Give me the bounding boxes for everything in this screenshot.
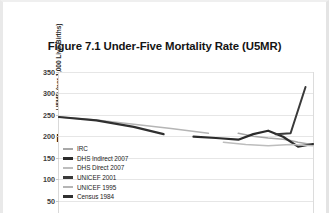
legend-swatch-icon [63,195,73,198]
chart-area: U5MR (per 1,000 Live Births) 50100150200… [58,72,314,213]
legend-label: UNICEF 2001 [77,174,116,181]
legend-item-dhs-direct-2007: DHS Direct 2007 [63,163,128,173]
legend-swatch-icon [63,176,73,179]
y-tick-label-150: 150 [43,153,55,162]
legend-swatch-icon [63,186,73,188]
legend-item-census-1984: Census 1984 [63,192,128,202]
chart-title-line-1: Figure 7.1 Under-Five Mortality Rate (U5… [3,39,326,54]
plot-area: 50100150200250300350 IRCDHS Indirect 200… [58,72,314,213]
legend-swatch-icon [63,157,73,160]
legend-item-dhs-indirect-2007: DHS Indirect 2007 [63,154,128,164]
y-tick-label-300: 300 [43,89,55,98]
y-tick-label-100: 100 [43,175,55,184]
slide-frame: Figure 7.1 Under-Five Mortality Rate (U5… [0,0,329,213]
y-tick-label-250: 250 [43,110,55,119]
legend-item-irc: IRC [63,144,128,154]
legend-label: Census 1984 [77,193,114,200]
chart-legend: IRCDHS Indirect 2007DHS Direct 2007UNICE… [63,144,128,202]
legend-item-unicef-1995: UNICEF 1995 [63,182,128,192]
legend-label: UNICEF 1995 [77,184,116,191]
y-tick-label-350: 350 [43,68,55,77]
y-tick-label-50: 50 [47,196,55,205]
legend-label: IRC [77,145,88,152]
legend-swatch-icon [63,167,73,169]
legend-swatch-icon [63,148,73,150]
y-tick-label-200: 200 [43,132,55,141]
legend-label: DHS Direct 2007 [77,164,124,171]
legend-label: DHS Indirect 2007 [77,155,128,162]
series-line-unicef-2001 [276,87,306,134]
legend-item-unicef-2001: UNICEF 2001 [63,173,128,183]
